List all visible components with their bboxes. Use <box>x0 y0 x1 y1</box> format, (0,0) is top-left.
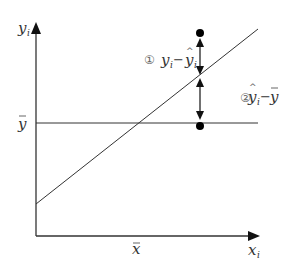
data-point-bottom <box>196 122 204 130</box>
explained-arrow-down-icon <box>196 111 204 120</box>
annotation-1-yhat-sub: i <box>194 60 197 70</box>
residual-arrow-down-icon <box>196 66 204 75</box>
y-axis-label: y <box>17 19 27 37</box>
x-axis-label-sub: i <box>257 250 260 260</box>
annotation-2-ybar: y <box>269 88 279 106</box>
regression-diagram: y i y x x i ① y i − ^ y i ② ^ y i − y <box>0 0 298 277</box>
annotation-1-marker: ① <box>144 53 155 67</box>
explained-arrow-up-icon <box>196 78 204 87</box>
annotation-2-yhat: y <box>247 88 257 106</box>
diagram-svg: y i y x x i ① y i − ^ y i ② ^ y i − y <box>0 0 298 277</box>
annotation-1-yhat: y <box>184 51 194 69</box>
x-mean-label: x <box>132 240 141 258</box>
x-axis-arrow-icon <box>248 231 260 241</box>
x-axis-label: x <box>248 241 257 259</box>
data-point-top <box>196 29 204 37</box>
annotation-1-yi: y <box>160 51 170 69</box>
y-mean-label: y <box>17 115 27 133</box>
y-axis-arrow-icon <box>31 22 41 34</box>
residual-arrow-up-icon <box>196 38 204 47</box>
y-axis-label-sub: i <box>27 28 30 38</box>
annotation-1-minus: − <box>173 52 184 67</box>
